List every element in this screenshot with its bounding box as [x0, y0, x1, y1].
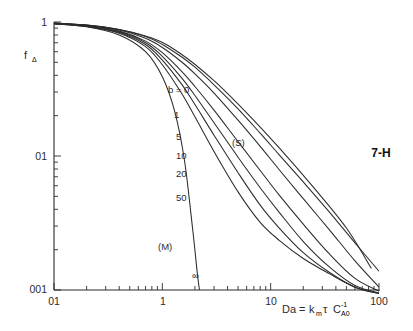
x-axis-label-c-superscript: -1 — [341, 301, 347, 308]
label-b-5: 5 — [176, 131, 181, 142]
label-b-50: 50 — [176, 192, 187, 203]
y-axis-label-subscript: Δ — [32, 56, 37, 63]
x-axis-label-c: C — [333, 303, 341, 315]
x-axis-label-equals: = — [299, 303, 305, 315]
chart-background — [0, 0, 413, 331]
y-tick-label-0.1: 01 — [35, 150, 47, 162]
label-b-1: 1 — [174, 109, 179, 120]
x-tick-label-10: 10 — [265, 295, 277, 307]
x-tick-label-100: 100 — [370, 295, 388, 307]
x-axis-label-c-subscript: A0 — [341, 310, 350, 317]
x-tick-label-1: 1 — [160, 295, 166, 307]
label-model-m: (M) — [158, 241, 172, 252]
x-tick-label-0.1: 01 — [48, 295, 60, 307]
label-b-0: b = 0 — [168, 84, 189, 95]
label-b-10: 10 — [176, 150, 187, 161]
figure-root: 1 01 001 01 1 10 100 f Δ Da = k m τ C A0… — [0, 0, 413, 331]
label-model-s: (S) — [232, 137, 245, 148]
label-b-inf: ∞ — [192, 270, 199, 281]
x-axis-label-k: k — [309, 303, 315, 315]
chart-canvas: 1 01 001 01 1 10 100 f Δ Da = k m τ C A0… — [0, 0, 413, 331]
x-axis-label-da: Da — [282, 303, 297, 315]
label-b-20: 20 — [176, 168, 187, 179]
x-axis-label-tau: τ — [323, 303, 328, 315]
figure-corner-label: 7-H — [371, 146, 390, 160]
x-axis-label-k-subscript: m — [316, 310, 322, 317]
y-tick-label-1: 1 — [41, 16, 47, 28]
y-tick-label-0.01: 001 — [29, 283, 47, 295]
